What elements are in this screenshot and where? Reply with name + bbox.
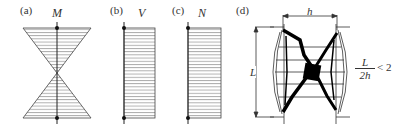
axial-diagram <box>186 22 221 124</box>
width-h-label: h <box>307 5 313 17</box>
shear-symbol: V <box>138 6 145 21</box>
ratio-fraction: L 2h <box>355 56 375 81</box>
ratio-numerator: L <box>355 56 375 69</box>
ratio-relation: < 2 <box>377 61 391 73</box>
ratio-denominator: 2h <box>355 69 375 81</box>
axial-symbol: N <box>198 6 206 21</box>
panel-a-label: (a) <box>20 4 32 16</box>
moment-diagram <box>23 22 91 124</box>
panel-c-label: (c) <box>172 4 184 16</box>
height-l-label: L <box>250 66 256 78</box>
moment-symbol: M <box>52 6 62 21</box>
panel-b-label: (b) <box>110 4 123 16</box>
shear-diagram <box>122 22 155 124</box>
panel-d-label: (d) <box>236 4 249 16</box>
crack-pattern <box>254 14 350 124</box>
